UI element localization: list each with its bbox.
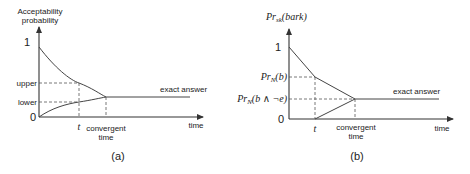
y-tick-prn-b-and-not-e: PrN(b ∧ ¬e) bbox=[236, 93, 288, 106]
y-tick-one: 1 bbox=[275, 41, 281, 53]
y-axis-label-line2: probability bbox=[22, 16, 58, 25]
x-tick-convergent-line1: convergent bbox=[336, 123, 376, 132]
y-tick-zero: 0 bbox=[30, 111, 36, 123]
x-axis-label: time bbox=[188, 121, 204, 130]
x-tick-t: t bbox=[78, 121, 81, 132]
x-tick-t: t bbox=[314, 123, 317, 134]
exact-answer-label: exact answer bbox=[393, 87, 440, 96]
y-tick-upper: upper bbox=[17, 79, 38, 88]
x-tick-convergent-line1: convergent bbox=[86, 124, 126, 133]
y-axis-label-line1: Acceptability bbox=[18, 7, 63, 16]
x-tick-convergent-line2: time bbox=[98, 133, 114, 142]
figure: Acceptability probability 1 upper lower … bbox=[0, 0, 470, 174]
panel-b: Prsk(bark) 1 PrN(b) PrN(b ∧ ¬e) 0 exact … bbox=[236, 11, 453, 162]
y-axis-label: Prsk(bark) bbox=[265, 11, 308, 24]
upper-bound-line bbox=[289, 47, 355, 99]
panel-a: Acceptability probability 1 upper lower … bbox=[17, 7, 208, 162]
y-tick-prn-b: PrN(b) bbox=[260, 71, 288, 84]
x-tick-convergent-line2: time bbox=[348, 132, 364, 141]
x-axis-label: time bbox=[434, 124, 450, 133]
upper-bound-curve bbox=[39, 47, 106, 97]
y-tick-one: 1 bbox=[24, 36, 30, 48]
lower-bound-curve bbox=[39, 97, 106, 117]
caption-b: (b) bbox=[350, 150, 363, 162]
caption-a: (a) bbox=[111, 150, 124, 162]
y-tick-lower: lower bbox=[18, 98, 37, 107]
y-tick-zero: 0 bbox=[278, 113, 284, 125]
exact-answer-label: exact answer bbox=[160, 85, 207, 94]
lower-bound-line bbox=[315, 99, 355, 119]
